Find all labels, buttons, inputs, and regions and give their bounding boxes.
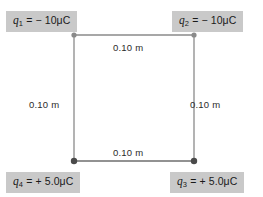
charge-subscript-q1: 1 — [19, 19, 23, 28]
dimension-label-right: 0.10 m — [190, 100, 220, 110]
dimension-label-bottom: 0.10 m — [113, 148, 143, 158]
charge-equals-q2: = — [192, 14, 198, 26]
charge-label-q3: q3 = + 5.0μC — [170, 172, 244, 193]
dimension-label-top: 0.10 m — [113, 43, 143, 53]
charge-subscript-q3: 3 — [183, 180, 187, 189]
charge-equals-q1: = — [26, 14, 32, 26]
charge-label-q1: q1 = − 10μC — [6, 11, 77, 32]
charge-symbol-q4: q4 — [13, 175, 23, 187]
charge-label-q2: q2 = − 10μC — [172, 11, 243, 32]
charge-value-q1: − 10μC — [35, 14, 70, 26]
charge-equals-q3: = — [190, 175, 196, 187]
charge-subscript-q2: 2 — [185, 19, 189, 28]
charge-symbol-q2: q2 — [179, 14, 189, 26]
corner-dot-q3 — [191, 158, 197, 164]
charge-subscript-q4: 4 — [19, 180, 23, 189]
corner-dot-q4 — [71, 158, 77, 164]
charge-symbol-q3: q3 — [177, 175, 187, 187]
dimension-label-left: 0.10 m — [29, 100, 59, 110]
charge-value-q2: − 10μC — [201, 14, 236, 26]
charge-label-q4: q4 = + 5.0μC — [6, 172, 80, 193]
charge-equals-q4: = — [26, 175, 32, 187]
charge-value-q4: + 5.0μC — [35, 175, 73, 187]
charge-value-q3: + 5.0μC — [199, 175, 237, 187]
charge-symbol-q1: q1 — [13, 14, 23, 26]
corner-dot-q2 — [191, 32, 196, 37]
charge-square-figure: q1 = − 10μC q2 = − 10μC q4 = + 5.0μC q3 … — [0, 0, 263, 197]
corner-dot-q1 — [71, 32, 76, 37]
